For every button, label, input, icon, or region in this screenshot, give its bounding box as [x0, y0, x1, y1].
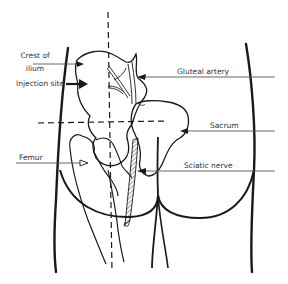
sciatic-nerve-arrowhead: [137, 168, 146, 174]
sacrum-label: Sacrum: [210, 122, 239, 130]
gluteal-artery-trunk-a: [128, 64, 132, 104]
sciatic-nerve: [125, 138, 138, 225]
crest-of-ilium-arrowhead: [76, 61, 84, 67]
gluteal-artery-trunk-b: [132, 62, 136, 104]
injection-site-label: Injection site: [16, 80, 64, 88]
injection-site-arrowhead: [79, 79, 88, 89]
crest-of-ilium-label-line2: ilium: [26, 64, 44, 73]
right-flank-outline: [246, 44, 255, 272]
gluteal-artery-branch-1a: [107, 68, 128, 98]
femur-arrowhead: [80, 160, 88, 166]
crest-of-ilium-label-line1: Crest of: [20, 51, 49, 60]
horizontal-dashed-line: [38, 121, 168, 123]
gluteal-injection-diagram: Crest of ilium Injection site Femur Glut…: [0, 0, 288, 284]
crest-of-ilium-label: Crest of: [18, 52, 52, 60]
crest-of-ilium-label-2: ilium: [18, 65, 52, 73]
femur-trochanter: [96, 138, 132, 178]
gluteal-artery-label: Gluteal artery: [177, 68, 229, 76]
sacrum-outline: [131, 101, 188, 176]
anatomy-drawing: [0, 0, 288, 284]
right-buttock-outline: [158, 170, 254, 218]
femur-label: Femur: [19, 154, 43, 162]
gluteal-artery-branch-3: [114, 68, 126, 80]
gluteal-cleft: [152, 137, 158, 268]
sacrum-arrowhead: [180, 128, 188, 134]
sciatic-nerve-label: Sciatic nerve: [184, 162, 233, 170]
